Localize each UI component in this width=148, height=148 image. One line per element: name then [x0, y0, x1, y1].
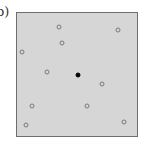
hollow-point-marker [20, 50, 25, 55]
hollow-point-marker [30, 104, 35, 109]
hollow-point-marker [45, 70, 50, 75]
hollow-point-marker [116, 28, 121, 33]
hollow-point-marker [60, 41, 65, 46]
hollow-point-marker [24, 123, 29, 128]
panel-label: b) [0, 5, 9, 19]
hollow-point-marker [100, 82, 105, 87]
filled-point-marker [76, 73, 81, 78]
hollow-point-marker [85, 104, 90, 109]
hollow-point-marker [57, 25, 62, 30]
hollow-point-marker [122, 120, 127, 125]
